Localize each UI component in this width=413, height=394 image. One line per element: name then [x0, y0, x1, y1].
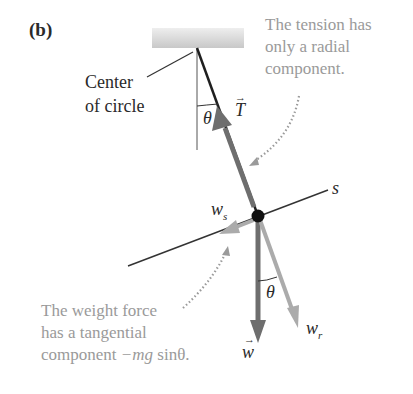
- weight-note-line-3: component −mg sinθ.: [41, 344, 190, 366]
- w-r-arrow-shaft: [260, 220, 293, 312]
- weight-note-line-1: The weight force: [41, 300, 190, 322]
- w-s-main: w: [211, 199, 223, 219]
- tension-note-line-1: The tension has: [265, 14, 372, 36]
- theta-arc-bottom: [258, 277, 277, 281]
- weight-symbol: w: [242, 342, 254, 363]
- w-r-subscript: r: [318, 329, 322, 341]
- weight-note-pointer-head: [222, 246, 230, 256]
- weight-note-tail: sinθ.: [153, 345, 189, 364]
- weight-note-line-2: has a tangential: [41, 322, 190, 344]
- tension-arrowhead: [212, 106, 232, 131]
- theta-arc-top: [197, 104, 218, 106]
- w-r-main: w: [306, 318, 318, 338]
- weight-note-math: −mg: [121, 345, 153, 364]
- w-s-label: ws: [211, 199, 227, 222]
- w-r-arrowhead: [287, 305, 299, 328]
- tension-arrow-shaft: [225, 128, 254, 207]
- w-s-arrowhead: [219, 220, 240, 234]
- ceiling-support: [152, 28, 244, 48]
- center-of-circle-label: Center of circle: [85, 70, 144, 118]
- panel-label: (b): [29, 19, 52, 41]
- weight-note: The weight force has a tangential compon…: [41, 300, 190, 366]
- theta-bottom-symbol: θ: [266, 282, 275, 303]
- center-label-line-1: Center: [85, 70, 144, 94]
- s-axis-label: s: [332, 178, 339, 199]
- weight-note-text: component: [41, 345, 121, 364]
- w-s-subscript: s: [223, 210, 227, 222]
- tension-symbol: T: [235, 100, 245, 121]
- tension-note-line-3: component.: [265, 58, 372, 80]
- center-label-line-2: of circle: [85, 94, 144, 118]
- tension-note-pointer: [256, 96, 299, 160]
- pendulum-force-diagram: (b) Center of circle The tension has onl…: [0, 0, 413, 394]
- w-r-label: wr: [306, 318, 322, 341]
- pendulum-bob: [252, 210, 265, 223]
- tension-note: The tension has only a radial component.: [265, 14, 372, 80]
- tension-note-line-2: only a radial: [265, 36, 372, 58]
- center-pointer-line: [147, 52, 193, 77]
- theta-top-symbol: θ: [203, 108, 212, 129]
